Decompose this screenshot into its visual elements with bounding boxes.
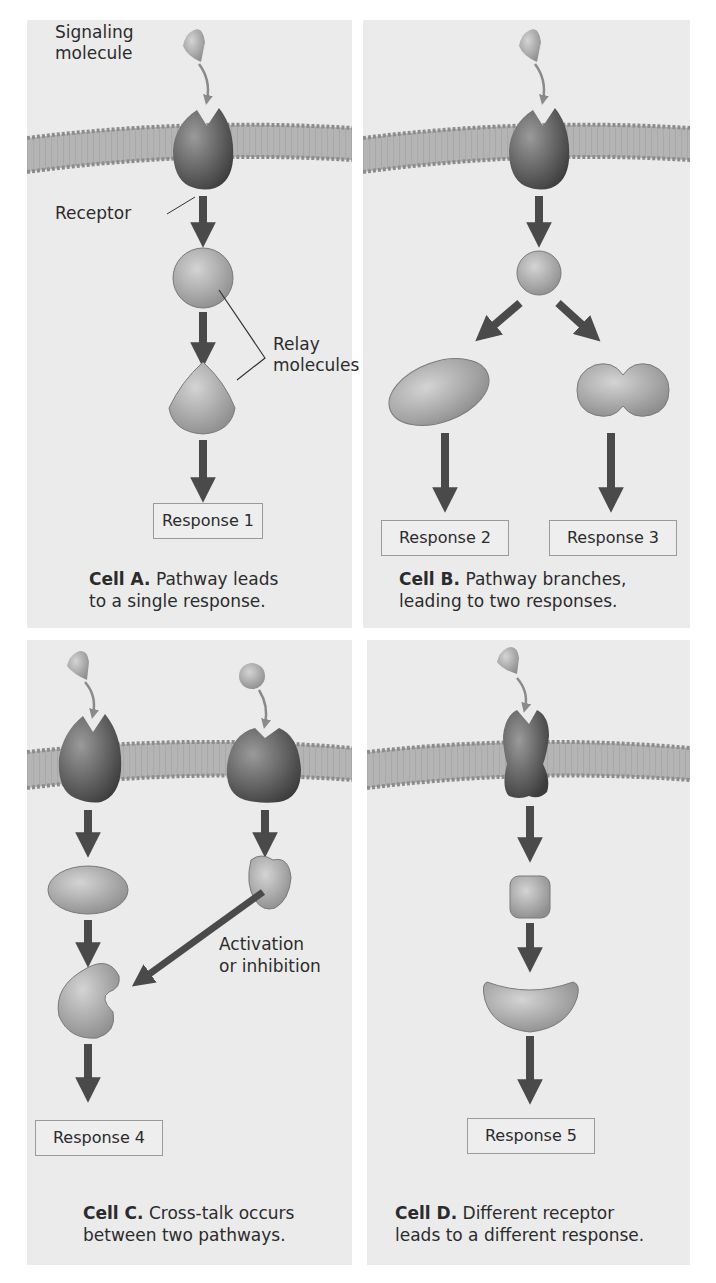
branch-arrow-left xyxy=(485,303,520,333)
relay-molecule-oval xyxy=(48,866,128,914)
cell-b-caption: Cell B. Pathway branches, leading to two… xyxy=(399,568,626,612)
response-2-box: Response 2 xyxy=(381,520,509,556)
signaling-molecule-icon xyxy=(183,29,205,62)
cell-b-caption-bold: Cell B. xyxy=(399,569,460,589)
cell-c-caption: Cell C. Cross-talk occurs between two pa… xyxy=(83,1202,294,1246)
relay-molecule-crescent xyxy=(483,982,578,1032)
signaling-molecule-label: molecule xyxy=(55,43,132,64)
cell-a-caption-line2: to a single response. xyxy=(89,591,266,611)
cell-d-diagram xyxy=(367,640,690,1265)
signal-arrow xyxy=(259,690,266,724)
receptor-icon xyxy=(509,108,569,190)
relay-molecule-sphere xyxy=(173,248,233,308)
signaling-molecule-sphere-icon xyxy=(239,663,265,689)
cell-a-caption-bold: Cell A. xyxy=(89,569,151,589)
relay-molecules-label: Relay xyxy=(273,334,320,355)
signal-arrow xyxy=(85,682,94,714)
cell-a-caption-line1: Pathway leads xyxy=(151,569,279,589)
relay-molecule-oval xyxy=(380,346,498,438)
cell-c-caption-line1: Cross-talk occurs xyxy=(144,1203,295,1223)
receptor-label: Receptor xyxy=(55,203,131,224)
cell-d-caption: Cell D. Different receptor leads to a di… xyxy=(395,1202,644,1246)
signaling-molecule-icon xyxy=(497,647,519,674)
response-1-box: Response 1 xyxy=(153,503,263,539)
receptor-icon xyxy=(59,714,121,803)
response-3-box: Response 3 xyxy=(549,520,677,556)
cell-b-caption-line1: Pathway branches, xyxy=(460,569,626,589)
cell-b-caption-line2: leading to two responses. xyxy=(399,591,617,611)
response-4-box: Response 4 xyxy=(35,1120,163,1156)
cell-b-panel: Response 2 Response 3 Cell B. Pathway br… xyxy=(363,20,690,628)
activation-label: or inhibition xyxy=(219,956,321,977)
relay-bracket xyxy=(219,290,265,380)
receptor-icon xyxy=(173,108,233,190)
cell-d-caption-line2: leads to a different response. xyxy=(395,1225,644,1245)
signal-arrow xyxy=(199,64,208,100)
branch-arrow-right xyxy=(558,303,591,333)
relay-molecules-label: molecules xyxy=(273,355,359,376)
relay-molecule-drop xyxy=(169,362,235,434)
activation-label: Activation xyxy=(219,934,304,955)
signaling-molecule-icon xyxy=(519,29,541,62)
cell-d-caption-line1: Different receptor xyxy=(457,1203,614,1223)
signal-arrow xyxy=(517,678,526,708)
response-5-box: Response 5 xyxy=(467,1118,595,1154)
signaling-molecule-icon xyxy=(67,651,89,680)
relay-molecule-square xyxy=(510,876,550,918)
signal-arrow xyxy=(535,64,544,100)
receptor-icon xyxy=(503,710,549,798)
relay-molecule-peanut xyxy=(577,364,669,417)
cell-c-caption-line2: between two pathways. xyxy=(83,1225,286,1245)
receptor-leader-line xyxy=(167,197,195,214)
cell-c-panel: Activation or inhibition Response 4 Cell… xyxy=(27,640,352,1265)
signaling-molecule-label: Signaling xyxy=(55,22,134,43)
cell-c-caption-bold: Cell C. xyxy=(83,1203,144,1223)
cell-a-panel: Signaling molecule Receptor Relay molecu… xyxy=(27,20,352,628)
relay-molecule-sphere xyxy=(517,251,561,295)
relay-molecule-kidney xyxy=(58,964,119,1039)
cell-d-panel: Response 5 Cell D. Different receptor le… xyxy=(367,640,690,1265)
cell-a-caption: Cell A. Pathway leads to a single respon… xyxy=(89,568,278,612)
receptor-icon xyxy=(227,728,301,803)
cell-d-caption-bold: Cell D. xyxy=(395,1203,457,1223)
